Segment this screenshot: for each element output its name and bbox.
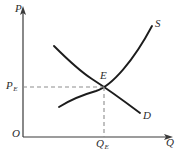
supply-curve-label: S: [155, 18, 161, 29]
equilibrium-point-label: E: [100, 70, 107, 81]
supply-demand-diagram: P Q O PE QE E S D: [0, 0, 184, 154]
equilibrium-quantity-label: QE: [96, 138, 108, 149]
equilibrium-price-label: PE: [6, 80, 17, 91]
equilibrium-quantity-main: Q: [96, 137, 104, 149]
equilibrium-price-main: P: [6, 79, 13, 91]
origin-label: O: [12, 128, 20, 139]
x-axis-label: Q: [166, 137, 174, 148]
demand-curve-label: D: [143, 110, 151, 121]
equilibrium-quantity-subscript: E: [104, 143, 108, 151]
supply-curve: [59, 26, 152, 107]
y-axis-label: P: [15, 3, 22, 14]
equilibrium-price-subscript: E: [13, 85, 17, 93]
